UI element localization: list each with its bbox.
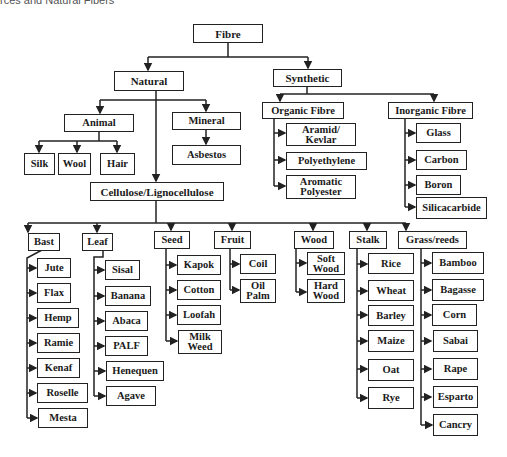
- node-flax: Flax: [37, 283, 71, 303]
- node-abaca: Abaca: [105, 311, 148, 331]
- node-aromatic-polyester: Aromatic Polyester: [286, 175, 356, 199]
- node-animal: Animal: [64, 114, 134, 132]
- node-corn: Corn: [432, 304, 477, 326]
- node-banana: Banana: [105, 286, 151, 306]
- node-seed: Seed: [154, 231, 190, 249]
- node-silk: Silk: [24, 153, 55, 175]
- node-oil-palm: Oil Palm: [240, 279, 276, 303]
- node-natural: Natural: [114, 71, 184, 91]
- node-polyethylene: Polyethylene: [286, 152, 367, 170]
- node-ramie: Ramie: [37, 333, 80, 353]
- node-oat: Oat: [368, 359, 414, 381]
- node-silicacarbide: Silicacarbide: [416, 197, 487, 219]
- node-jute: Jute: [37, 258, 71, 278]
- node-grass-reeds: Grass/reeds: [398, 231, 467, 249]
- node-loofah: Loofah: [177, 305, 221, 325]
- node-roselle: Roselle: [37, 383, 88, 403]
- node-kapok: Kapok: [177, 255, 221, 275]
- node-coil: Coil: [240, 254, 276, 274]
- node-sisal: Sisal: [105, 260, 140, 280]
- node-aramid-kevlar: Aramid/ Kevlar: [286, 123, 356, 146]
- node-hemp: Hemp: [37, 308, 79, 328]
- node-fibre: Fibre: [193, 24, 263, 43]
- node-wood: Wood: [294, 231, 334, 249]
- node-carbon: Carbon: [416, 150, 467, 170]
- node-bagasse: Bagasse: [432, 279, 484, 301]
- node-fruit: Fruit: [214, 231, 251, 249]
- node-rye: Rye: [368, 387, 414, 409]
- node-kenaf: Kenaf: [37, 358, 80, 378]
- node-bamboo: Bamboo: [432, 252, 484, 274]
- node-esparto: Esparto: [433, 386, 478, 408]
- node-rape: Rape: [433, 358, 478, 380]
- node-glass: Glass: [416, 123, 461, 143]
- node-hard-wood: Hard Wood: [307, 279, 345, 303]
- node-agave: Agave: [106, 386, 156, 406]
- node-cancry: Cancry: [433, 414, 478, 436]
- node-wheat: Wheat: [368, 280, 414, 301]
- node-mesta: Mesta: [38, 408, 88, 428]
- node-asbestos: Asbestos: [172, 145, 241, 165]
- node-leaf: Leaf: [82, 233, 113, 251]
- node-stalk: Stalk: [349, 231, 387, 249]
- node-rice: Rice: [368, 253, 414, 274]
- node-soft-wood: Soft Wood: [307, 252, 345, 275]
- node-palf: PALF: [105, 336, 148, 356]
- node-boron: Boron: [416, 175, 461, 195]
- node-cellulose: Cellulose/Lignocellulose: [90, 182, 224, 201]
- node-milk-weed: Milk Weed: [178, 330, 222, 354]
- node-bast: Bast: [28, 233, 60, 251]
- node-barley: Barley: [368, 305, 414, 326]
- node-inorganic-fibre: Inorganic Fibre: [388, 102, 473, 119]
- node-mineral: Mineral: [172, 112, 241, 130]
- node-henequen: Henequen: [106, 361, 164, 381]
- node-wool: Wool: [58, 153, 91, 175]
- node-synthetic: Synthetic: [273, 69, 342, 87]
- node-sabai: Sabai: [433, 330, 478, 352]
- node-maize: Maize: [368, 330, 414, 352]
- node-organic-fibre: Organic Fibre: [262, 102, 344, 119]
- node-cotton: Cotton: [177, 280, 221, 300]
- node-hair: Hair: [100, 153, 135, 175]
